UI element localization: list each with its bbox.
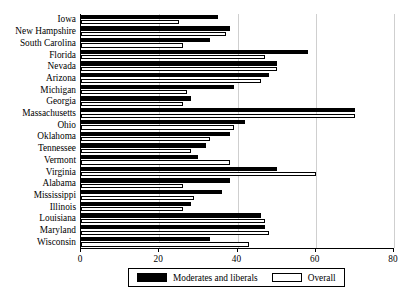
bar-group — [81, 49, 394, 61]
bar-moderates-and-liberals — [81, 120, 245, 124]
plot-area — [80, 14, 394, 248]
category-axis-labels: IowaNew HampshireSouth CarolinaFloridaNe… — [0, 14, 76, 248]
legend-label: Overall — [308, 273, 336, 283]
bar-overall — [81, 196, 194, 200]
bar-overall — [81, 43, 183, 47]
x-axis-tick-label: 20 — [154, 254, 163, 264]
bar-group — [81, 61, 394, 73]
bar-group — [81, 154, 394, 166]
bar-moderates-and-liberals — [81, 237, 210, 241]
category-label: Nevada — [0, 61, 76, 71]
bar-overall — [81, 137, 210, 141]
bar-moderates-and-liberals — [81, 85, 234, 89]
bar-moderates-and-liberals — [81, 15, 218, 19]
bar-group — [81, 37, 394, 49]
bar-overall — [81, 79, 261, 83]
bar-group — [81, 73, 394, 85]
bar-moderates-and-liberals — [81, 132, 230, 136]
bar-overall — [81, 219, 265, 223]
bar-moderates-and-liberals — [81, 61, 277, 65]
bar-overall — [81, 125, 234, 129]
bar-overall — [81, 32, 226, 36]
category-label: Michigan — [0, 85, 76, 95]
x-axis-tick-label: 0 — [78, 254, 83, 264]
bar-overall — [81, 90, 187, 94]
bar-moderates-and-liberals — [81, 96, 191, 100]
x-axis-tick — [80, 248, 81, 252]
bar-overall — [81, 184, 183, 188]
bar-group — [81, 190, 394, 202]
bar-group — [81, 178, 394, 190]
bar-group — [81, 14, 394, 26]
chart-legend: Moderates and liberals Overall — [128, 268, 345, 287]
bar-overall — [81, 149, 191, 153]
bar-overall — [81, 160, 230, 164]
bar-group — [81, 96, 394, 108]
bar-overall — [81, 20, 179, 24]
legend-item-moderates-and-liberals: Moderates and liberals — [137, 273, 258, 283]
bar-group — [81, 119, 394, 131]
x-axis-tick — [237, 248, 238, 252]
category-label: Ohio — [0, 120, 76, 130]
bar-overall — [81, 67, 277, 71]
bar-group — [81, 26, 394, 38]
bar-moderates-and-liberals — [81, 143, 206, 147]
bar-moderates-and-liberals — [81, 190, 222, 194]
bar-overall — [81, 242, 249, 246]
bar-moderates-and-liberals — [81, 167, 277, 171]
category-label: Mississippi — [0, 190, 76, 200]
category-label: Georgia — [0, 96, 76, 106]
bar-moderates-and-liberals — [81, 213, 261, 217]
bar-overall — [81, 172, 316, 176]
category-label: Massachusetts — [0, 108, 76, 118]
bar-overall — [81, 231, 269, 235]
bar-group — [81, 84, 394, 96]
bar-overall — [81, 207, 183, 211]
x-axis-tick — [393, 248, 394, 252]
category-label: Florida — [0, 50, 76, 60]
x-axis-tick — [315, 248, 316, 252]
x-axis-tick-label: 60 — [310, 254, 319, 264]
category-label: Alabama — [0, 178, 76, 188]
bar-group — [81, 225, 394, 237]
category-label: Arizona — [0, 73, 76, 83]
bar-group — [81, 143, 394, 155]
x-axis-tick — [158, 248, 159, 252]
bar-moderates-and-liberals — [81, 50, 308, 54]
bar-group — [81, 236, 394, 248]
category-label: Tennessee — [0, 143, 76, 153]
gridline — [394, 14, 395, 248]
bar-overall — [81, 102, 183, 106]
bar-group — [81, 131, 394, 143]
bar-group — [81, 166, 394, 178]
category-label: Virginia — [0, 167, 76, 177]
bar-moderates-and-liberals — [81, 225, 265, 229]
category-label: New Hampshire — [0, 26, 76, 36]
legend-label: Moderates and liberals — [173, 273, 258, 283]
x-axis — [80, 248, 393, 249]
x-axis-tick-label: 80 — [388, 254, 397, 264]
bar-moderates-and-liberals — [81, 38, 210, 42]
legend-swatch-dark-icon — [137, 273, 167, 282]
category-label: Wisconsin — [0, 237, 76, 247]
bar-group — [81, 201, 394, 213]
category-label: Oklahoma — [0, 131, 76, 141]
bar-moderates-and-liberals — [81, 155, 198, 159]
x-axis-tick-label: 40 — [232, 254, 241, 264]
category-label: South Carolina — [0, 38, 76, 48]
bar-moderates-and-liberals — [81, 73, 269, 77]
category-label: Maryland — [0, 225, 76, 235]
bar-moderates-and-liberals — [81, 108, 355, 112]
category-label: Illinois — [0, 202, 76, 212]
bar-group — [81, 213, 394, 225]
bar-chart: IowaNew HampshireSouth CarolinaFloridaNe… — [0, 0, 404, 293]
bar-moderates-and-liberals — [81, 202, 191, 206]
bar-group — [81, 108, 394, 120]
category-label: Iowa — [0, 14, 76, 24]
bar-overall — [81, 55, 265, 59]
bar-moderates-and-liberals — [81, 178, 230, 182]
legend-swatch-light-icon — [272, 273, 302, 282]
category-label: Louisiana — [0, 213, 76, 223]
bar-overall — [81, 114, 355, 118]
category-label: Vermont — [0, 155, 76, 165]
